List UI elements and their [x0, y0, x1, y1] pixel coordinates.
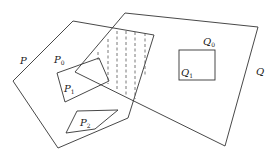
polygon-diagram: P P0 P1 P2 Q Q0 Q1: [0, 0, 272, 158]
label-p: P: [19, 55, 27, 66]
label-q1: Q1: [181, 67, 193, 79]
polygon-q: [75, 13, 258, 146]
polygon-p2: [66, 110, 118, 133]
label-p1: P1: [63, 83, 75, 95]
label-p0: P0: [53, 54, 65, 66]
label-p2: P2: [79, 117, 91, 129]
hatched-intersection: [98, 31, 145, 99]
label-q: Q: [256, 66, 264, 77]
label-q0: Q0: [203, 36, 215, 48]
polygon-p: [13, 21, 154, 148]
polygon-p1: [57, 58, 109, 102]
